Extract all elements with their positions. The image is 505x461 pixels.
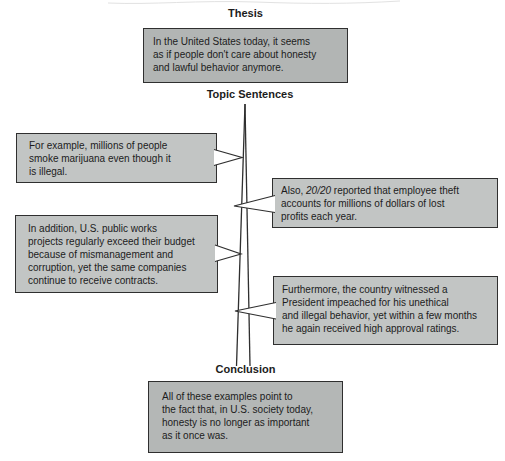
conclusion-text: All of these examples point to the fact … — [162, 390, 338, 442]
thesis-heading: Thesis — [143, 7, 348, 20]
italic-show-title: 20/20 — [306, 185, 331, 196]
topic-box-1: For example, millions of people smoke ma… — [16, 133, 217, 183]
topic-sentences-heading: Topic Sentences — [150, 88, 350, 101]
topic-box-2: Also, 20/20 reported that employee theft… — [272, 178, 498, 228]
callout-pointer-4 — [235, 303, 276, 320]
topic-box-3-text: In addition, U.S. public works projects … — [28, 222, 213, 287]
conclusion-box: All of these examples point to the fact … — [148, 381, 343, 453]
topic-box-4-text: Furthermore, the country witnessed a Pre… — [282, 283, 495, 335]
spine-left-line — [237, 104, 246, 366]
thesis-text: In the United States today, it seems as … — [153, 35, 341, 74]
topic-box-2-text: Also, 20/20 reported that employee theft… — [281, 184, 493, 223]
callout-pointer-3 — [215, 245, 241, 262]
spine-right-line — [245, 104, 250, 366]
thesis-box: In the United States today, it seems as … — [143, 28, 348, 83]
callout-pointer-2 — [234, 196, 275, 213]
outline-diagram: Thesis In the United States today, it se… — [0, 0, 505, 461]
topic-box-1-text: For example, millions of people smoke ma… — [29, 139, 212, 178]
topic-box-4: Furthermore, the country witnessed a Pre… — [273, 276, 498, 345]
conclusion-heading: Conclusion — [148, 363, 343, 376]
topic-box-3: In addition, U.S. public works projects … — [15, 215, 218, 293]
callout-pointer-1 — [214, 150, 242, 166]
